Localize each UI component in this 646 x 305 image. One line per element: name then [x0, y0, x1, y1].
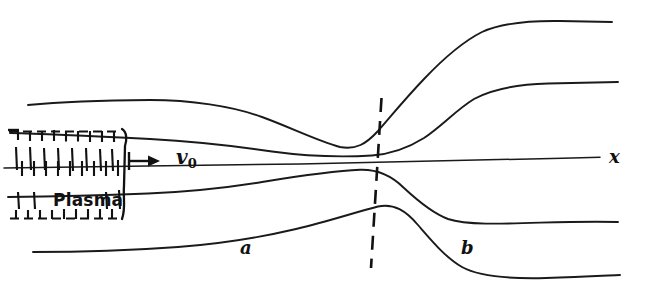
flux-line-inner-upper — [10, 82, 618, 156]
diagram-svg — [0, 0, 646, 305]
x-axis-label: x — [609, 148, 620, 166]
region-b-label: b — [461, 239, 474, 257]
velocity-subscript: 0 — [188, 156, 197, 171]
flux-line-outer-lower — [33, 206, 620, 279]
velocity-label: v0 — [176, 147, 197, 170]
nozzle-throat-dashed-line — [371, 98, 382, 268]
velocity-symbol: v — [176, 145, 188, 169]
figure-canvas: v0 x a b Plasma — [0, 0, 646, 305]
region-a-label: a — [240, 239, 252, 257]
velocity-arrow-head — [148, 156, 160, 167]
velocity-arrow — [129, 152, 160, 170]
plasma-label: Plasma — [53, 192, 123, 209]
